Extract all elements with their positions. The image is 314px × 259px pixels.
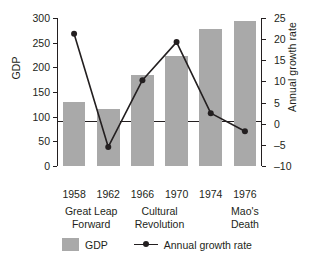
growth-rate-point-1970 (174, 39, 180, 45)
x-tick-1970: 1970 (160, 188, 194, 200)
growth-rate-point-1976 (242, 128, 248, 134)
y-tick-right-15: 15 (274, 55, 300, 66)
y-tick-left-100: 100 (24, 112, 50, 123)
x-tick-1962: 1962 (91, 188, 125, 200)
growth-rate-point-1962 (105, 144, 111, 150)
y-tick-right-10: 10 (274, 76, 300, 87)
growth-rate-polyline (74, 34, 245, 147)
tickmark-right (262, 145, 266, 146)
y-tick-left-0: 0 (24, 161, 50, 172)
tickmark-right (262, 103, 266, 104)
legend-label-growth-rate: Annual growth rate (164, 239, 252, 251)
legend-swatch-icon (62, 238, 79, 251)
x-axis-year-labels: 195819621966197019741976 (57, 188, 262, 204)
y-tick-right-0: 0 (274, 119, 300, 130)
growth-rate-point-1974 (208, 110, 214, 116)
tickmark-right (262, 18, 266, 19)
growth-rate-point-1958 (71, 31, 77, 37)
y-tick-left-300: 300 (24, 13, 50, 24)
tickmark-right (262, 60, 266, 61)
tickmark-right (262, 166, 266, 167)
y-tick-right--5: –5 (274, 140, 300, 151)
y-tick-left-150: 150 (24, 87, 50, 98)
chart-legend: GDP Annual growth rate (62, 238, 252, 251)
gdp-growth-chart: GDP Annual growth rate 05010015020025030… (0, 0, 314, 259)
plot-area (57, 18, 262, 166)
y-tick-right--10: –10 (274, 161, 300, 172)
legend-item-growth-rate: Annual growth rate (134, 239, 252, 251)
legend-label-gdp: GDP (85, 239, 108, 251)
event-label-line: Mao's (205, 205, 285, 218)
tickmark-right (262, 81, 266, 82)
y-tick-right-20: 20 (274, 34, 300, 45)
legend-item-gdp: GDP (62, 238, 108, 251)
x-tick-1958: 1958 (57, 188, 91, 200)
x-axis-event-labels: Great LeapForwardCulturalRevolutionMao's… (30, 205, 290, 239)
y-tick-right-25: 25 (274, 13, 300, 24)
event-label-2: Mao'sDeath (205, 205, 285, 230)
x-tick-1976: 1976 (228, 188, 262, 200)
event-label-line: Cultural (120, 205, 200, 218)
x-tick-1966: 1966 (125, 188, 159, 200)
y-tick-left-250: 250 (24, 38, 50, 49)
tickmark-left (53, 166, 57, 167)
tickmark-right (262, 39, 266, 40)
tickmark-right (262, 124, 266, 125)
legend-line-dot-icon (134, 240, 158, 250)
event-label-line: Revolution (120, 218, 200, 231)
y-axis-left-title: GDP (10, 40, 22, 96)
y-tick-left-50: 50 (24, 136, 50, 147)
event-label-1: CulturalRevolution (120, 205, 200, 230)
y-tick-left-200: 200 (24, 62, 50, 73)
event-label-line: Death (205, 218, 285, 231)
growth-rate-point-1966 (139, 77, 145, 83)
y-tick-right-5: 5 (274, 98, 300, 109)
x-tick-1974: 1974 (194, 188, 228, 200)
growth-rate-line (57, 18, 262, 166)
